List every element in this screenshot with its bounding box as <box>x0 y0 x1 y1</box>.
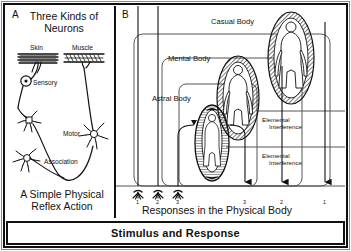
stimulus-line-3 <box>178 125 194 186</box>
response-number-1: 1 <box>323 199 326 205</box>
elemental-interference-lower: Elemental Interference <box>262 152 302 167</box>
nerve-ending-1 <box>133 191 143 200</box>
label-astral-body: Astral Body <box>152 94 191 103</box>
subtle-bodies-diagram <box>116 6 345 218</box>
panel-a-caption-line2: Reflex Action <box>10 200 114 212</box>
label-casual-body: Casual Body <box>211 17 254 26</box>
elemental-interference-upper-line2: Interference <box>262 123 302 130</box>
elemental-interference-upper: Elemental Interference <box>262 116 302 131</box>
panel-a-caption-line1: A Simple Physical <box>10 188 114 200</box>
astral-body-figure <box>195 105 229 181</box>
figure-stimulus-and-response: A Three Kinds of Neurons <box>0 0 351 251</box>
casual-body-figure <box>268 12 314 104</box>
panel-b-axis-label: Responses in the Physical Body <box>142 204 292 216</box>
panel-b-subtle-bodies: B <box>116 6 345 218</box>
panels-row: A Three Kinds of Neurons <box>6 6 345 218</box>
stimulus-number-1: 1 <box>136 199 139 205</box>
figure-caption-band: Stimulus and Response <box>6 221 345 245</box>
label-motor: Motor <box>63 130 80 138</box>
motor-neuron <box>79 123 108 149</box>
elemental-interference-upper-line1: Elemental <box>262 116 290 123</box>
elemental-interference-lower-line2: Interference <box>262 159 302 166</box>
label-sensory: Sensory <box>33 79 57 87</box>
neuron-reflex-drawing <box>6 6 116 218</box>
panel-a-caption: A Simple Physical Reflex Action <box>10 188 114 212</box>
label-association: Association <box>44 158 78 166</box>
label-muscle: Muscle <box>72 44 93 52</box>
association-neuron <box>18 111 41 132</box>
nerve-ending-2 <box>153 191 163 200</box>
figure-caption: Stimulus and Response <box>111 227 240 239</box>
association-neuron-secondary <box>13 149 40 172</box>
panel-a-neurons: A Three Kinds of Neurons <box>6 6 116 218</box>
nerve-ending-3 <box>173 191 183 200</box>
label-mental-body: Mental Body <box>168 54 210 63</box>
label-skin: Skin <box>30 44 43 52</box>
elemental-interference-lower-line1: Elemental <box>262 152 290 159</box>
